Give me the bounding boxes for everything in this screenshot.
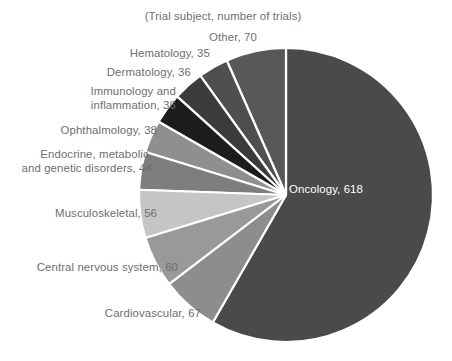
slice-label-musculoskeletal: Musculoskeletal, 56 — [0, 207, 157, 221]
slice-label-ophthalmology: Ophthalmology, 38 — [0, 124, 157, 138]
pie-slices — [139, 48, 433, 342]
slice-label-immunology-line1: Immunology and — [0, 85, 176, 99]
slice-label-hematology: Hematology, 35 — [0, 47, 210, 61]
slice-label-immunology-line2: inflammation, 36 — [0, 99, 176, 113]
slice-label-endocrine-line1: Endocrine, metabolic, — [0, 148, 152, 162]
slice-label-dermatology: Dermatology, 36 — [0, 66, 191, 80]
slice-label-oncology: Oncology, 618 — [289, 183, 363, 195]
slice-label-cardiovascular: Cardiovascular, 67 — [0, 307, 201, 321]
slice-label-endocrine-line2: and genetic disorders, 44 — [0, 162, 152, 176]
pie-chart: (Trial subject, number of trials) Other,… — [0, 0, 452, 361]
slice-label-central-nervous-system: Central nervous system, 60 — [0, 261, 178, 275]
slice-label-other: Other, 70 — [209, 31, 257, 45]
chart-subtitle: (Trial subject, number of trials) — [145, 10, 302, 24]
